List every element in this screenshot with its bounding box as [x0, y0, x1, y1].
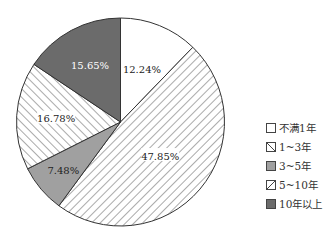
legend-swatch-icon	[266, 142, 276, 152]
slice-percent-label: 16.78%	[37, 113, 75, 124]
legend-item: 1~3年	[266, 137, 322, 156]
legend-label: 1~3年	[279, 139, 311, 154]
legend-swatch-icon	[266, 180, 276, 190]
slice-percent-label: 12.24%	[123, 64, 161, 75]
legend-swatch-icon	[266, 161, 276, 171]
legend-item: 10年以上	[266, 194, 322, 213]
legend-item: 5~10年	[266, 175, 322, 194]
slice-percent-label: 47.85%	[141, 151, 179, 162]
legend-swatch-icon	[266, 123, 276, 133]
slice-percent-label: 7.48%	[47, 165, 79, 176]
slice-percent-label: 15.65%	[71, 60, 109, 71]
legend-label: 10年以上	[279, 196, 322, 211]
legend-item: 3~5年	[266, 156, 322, 175]
legend-swatch-icon	[266, 199, 276, 209]
legend: 不满1年 1~3年 3~5年 5~10年 10年以上	[266, 118, 322, 213]
legend-item: 不满1年	[266, 118, 322, 137]
legend-label: 3~5年	[279, 158, 311, 173]
legend-label: 不满1年	[279, 120, 316, 135]
legend-label: 5~10年	[279, 177, 318, 192]
